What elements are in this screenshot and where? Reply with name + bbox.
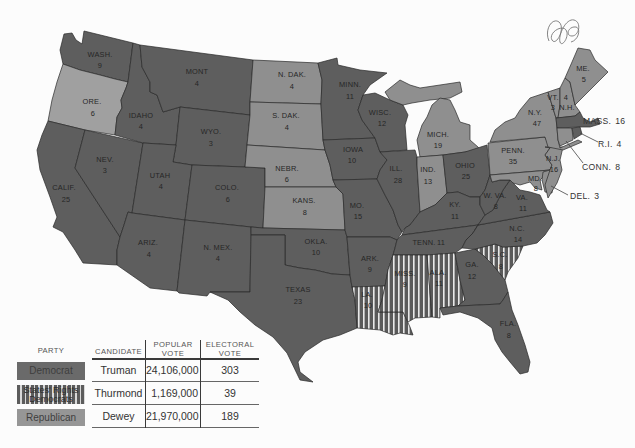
ev: 4: [617, 139, 622, 149]
candidate-cell: Thurmond: [92, 387, 145, 399]
candidate-cell: Truman: [92, 364, 145, 376]
row-divider: [92, 381, 259, 382]
abbr: S. DAK.: [272, 111, 300, 120]
electoral-vote-cell: 303: [201, 364, 259, 376]
abbr: MISS.: [394, 269, 415, 278]
ev: 25: [62, 195, 71, 204]
ev: 4: [290, 82, 294, 91]
abbr: ARIZ.: [138, 238, 158, 247]
abbr: NEBR.: [275, 164, 299, 173]
ev: 16: [615, 116, 625, 126]
abbr: S.C.: [492, 250, 507, 259]
abbr: NEV.: [96, 155, 113, 164]
abbr: FLA.: [500, 319, 516, 328]
abbr: N.H.: [559, 103, 575, 112]
ev: 8: [534, 184, 538, 193]
abbr: KANS.: [292, 196, 315, 205]
ev: 11: [451, 212, 459, 221]
abbr: OKLA.: [305, 237, 328, 246]
state-wyoming: [173, 107, 250, 167]
label-del: DEL.3: [570, 191, 599, 201]
abbr: DEL.: [570, 191, 590, 201]
ev: 19: [434, 141, 443, 150]
ev: 11: [519, 204, 527, 213]
ev: 10: [364, 301, 373, 310]
popular-vote-cell: 1,169,000: [146, 387, 198, 399]
candidate-cell: Dewey: [92, 410, 145, 422]
row-divider: [92, 404, 259, 405]
legend-republican: Republican: [17, 409, 85, 426]
ev: 10: [348, 156, 357, 165]
popular-vote-header: POPULAR VOTE: [146, 341, 200, 358]
ev: 8: [615, 162, 620, 172]
abbr: GA.: [465, 260, 478, 269]
ev: 4: [139, 122, 143, 131]
electoral-vote-cell: 189: [201, 410, 259, 422]
abbr: ME.: [576, 64, 590, 73]
abbr: MICH.: [427, 130, 449, 139]
ev: 6: [91, 109, 95, 118]
ev: 25: [462, 172, 471, 181]
abbr: MONT: [186, 67, 209, 76]
ev: 12: [468, 272, 477, 281]
abbr: W. VA.: [483, 191, 506, 200]
handwritten-scribble-icon: [547, 20, 578, 44]
abbr: UTAH: [150, 171, 170, 180]
ev: 23: [294, 297, 303, 306]
electoral-header-line2: VOTE: [201, 350, 259, 359]
abbr: ARK.: [361, 254, 379, 263]
abbr: N.C.: [509, 224, 525, 233]
abbr: IOWA: [343, 145, 363, 154]
ev: 16: [550, 165, 559, 174]
row-divider: [92, 427, 259, 428]
ev: 4: [159, 182, 163, 191]
abbr: MINN.: [339, 80, 361, 89]
state-north-dakota: [250, 60, 322, 104]
abbr: VT.: [547, 93, 558, 102]
ev: 3: [594, 191, 599, 201]
pointer-line-del: [551, 186, 568, 195]
ev: 11: [437, 238, 445, 247]
ev: 9: [98, 61, 102, 70]
ev: 4: [216, 254, 220, 263]
abbr: WISC.: [369, 108, 391, 117]
candidate-header: CANDIDATE: [92, 348, 145, 357]
abbr: N.Y.: [528, 108, 542, 117]
label-mass: MASS.16: [583, 116, 625, 126]
ev: 11: [435, 279, 443, 288]
state-new-mexico: [177, 220, 251, 296]
ev: 6: [226, 195, 230, 204]
ev: 14: [514, 235, 523, 244]
ev: 4: [564, 93, 568, 102]
label-ri: R.I.4: [598, 139, 622, 149]
ev: 6: [285, 175, 289, 184]
abbr: COLO.: [215, 183, 239, 192]
abbr: IND.: [420, 165, 436, 174]
popular-vote-cell: 24,106,000: [146, 364, 198, 376]
abbr: N. MEX.: [204, 243, 233, 252]
abbr: ORE.: [83, 97, 102, 106]
ev: 11: [346, 92, 354, 101]
abbr: WYO.: [201, 127, 222, 136]
label-tenn: TENN.11: [412, 238, 445, 247]
ev: 9: [368, 265, 372, 274]
legend-republican-label: Republican: [26, 413, 76, 423]
popular-vote-cell: 21,970,000: [146, 410, 198, 422]
legend-states-rights-line2: Democrats: [29, 395, 73, 404]
abbr: OHIO: [455, 161, 475, 170]
electoral-vote-cell: 39: [201, 387, 259, 399]
abbr: CALIF.: [52, 183, 75, 192]
abbr: MO.: [350, 201, 365, 210]
ev: 10: [312, 248, 321, 257]
label-conn: CONN.8: [582, 162, 620, 172]
abbr: LA.: [361, 290, 373, 299]
popular-header-line2: VOTE: [146, 350, 200, 359]
abbr: N.J.: [546, 154, 560, 163]
ev: 9: [403, 280, 407, 289]
abbr: N. DAK.: [278, 70, 306, 79]
abbr: IDAHO: [129, 111, 153, 120]
state-michigan: [417, 98, 480, 157]
ev: 35: [509, 157, 518, 166]
electoral-vote-header: ELECTORAL VOTE: [201, 341, 259, 358]
ev: 3: [551, 103, 555, 112]
